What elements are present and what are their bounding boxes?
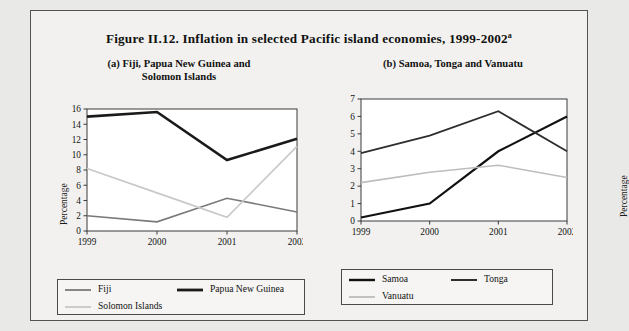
panel-b-subtitle: (b) Samoa, Tonga and Vanuatu (319, 57, 587, 70)
panel-b-legend-row-1: Samoa Tonga (342, 270, 552, 287)
svg-text:6: 6 (350, 112, 355, 122)
legend-item-papua-new-guinea: Papua New Guinea (177, 280, 284, 298)
panel-a-line-chart: 02468101214161999200020012002 (63, 103, 303, 253)
figure-title-text: Figure II.12. Inflation in selected Paci… (106, 31, 508, 46)
svg-text:2000: 2000 (420, 227, 439, 237)
figure-frame: Figure II.12. Inflation in selected Paci… (30, 10, 588, 321)
svg-text:2: 2 (350, 181, 355, 191)
legend-item-vanuatu: Vanuatu (349, 287, 413, 305)
svg-text:5: 5 (350, 129, 355, 139)
legend-item-fiji: Fiji (65, 280, 177, 298)
legend-label-vanuatu: Vanuatu (382, 290, 413, 301)
panel-b-line-chart: 012345671999200020012002 (341, 93, 573, 243)
svg-text:7: 7 (350, 94, 355, 104)
svg-text:2002: 2002 (558, 227, 573, 237)
legend-label-tonga: Tonga (484, 273, 508, 284)
panel-a-legend: Fiji Papua New Guinea Solomon Islands (57, 279, 305, 315)
legend-swatch-tonga (451, 270, 477, 288)
svg-text:6: 6 (76, 181, 81, 191)
svg-text:2000: 2000 (148, 237, 167, 247)
legend-swatch-vanuatu (349, 287, 375, 305)
panel-b-legend: Samoa Tonga Vanuatu (341, 269, 553, 305)
legend-swatch-samoa (349, 270, 375, 288)
svg-text:2: 2 (76, 211, 81, 221)
panel-a-legend-row-1: Fiji Papua New Guinea (58, 280, 304, 297)
legend-swatch-solomon-islands (65, 297, 91, 315)
svg-text:2001: 2001 (489, 227, 508, 237)
svg-text:1: 1 (350, 199, 355, 209)
legend-label-solomon-islands: Solomon Islands (98, 300, 162, 311)
panel-b-y-axis-label: Percentage (619, 175, 629, 217)
panel-a-subtitle: (a) Fiji, Papua New Guinea and Solomon I… (39, 57, 319, 83)
panel-a-subtitle-line1: (a) Fiji, Papua New Guinea and (39, 57, 319, 70)
panel-b: (b) Samoa, Tonga and Vanuatu Percentage … (319, 57, 587, 312)
svg-text:8: 8 (76, 165, 81, 175)
panel-a-plot-area: 02468101214161999200020012002 (63, 103, 303, 253)
legend-swatch-fiji (65, 280, 91, 298)
legend-item-tonga: Tonga (451, 270, 508, 288)
panel-b-plot-area: 012345671999200020012002 (341, 93, 573, 243)
svg-text:4: 4 (350, 147, 355, 157)
legend-item-samoa: Samoa (349, 270, 451, 288)
svg-text:1999: 1999 (78, 237, 97, 247)
legend-label-papua-new-guinea: Papua New Guinea (210, 283, 284, 294)
figure-title: Figure II.12. Inflation in selected Paci… (31, 31, 587, 47)
svg-text:0: 0 (76, 226, 81, 236)
legend-label-fiji: Fiji (98, 283, 111, 294)
panel-a-subtitle-line2: Solomon Islands (39, 70, 319, 83)
svg-text:14: 14 (72, 120, 82, 130)
panel-a-legend-row-2: Solomon Islands (58, 297, 304, 314)
svg-text:16: 16 (72, 104, 82, 114)
figure-title-footnote-marker: a (508, 31, 512, 40)
legend-label-samoa: Samoa (382, 273, 408, 284)
panel-b-subtitle-line1: (b) Samoa, Tonga and Vanuatu (319, 57, 587, 70)
svg-text:12: 12 (72, 135, 82, 145)
svg-text:2001: 2001 (218, 237, 237, 247)
svg-text:0: 0 (350, 216, 355, 226)
svg-text:3: 3 (350, 164, 355, 174)
svg-text:2002: 2002 (288, 237, 303, 247)
panel-b-legend-row-2: Vanuatu (342, 287, 552, 304)
svg-text:4: 4 (76, 196, 81, 206)
legend-item-solomon-islands: Solomon Islands (65, 297, 162, 315)
panel-a: (a) Fiji, Papua New Guinea and Solomon I… (39, 57, 319, 312)
legend-swatch-papua-new-guinea (177, 280, 203, 298)
svg-text:10: 10 (72, 150, 82, 160)
svg-text:1999: 1999 (352, 227, 371, 237)
